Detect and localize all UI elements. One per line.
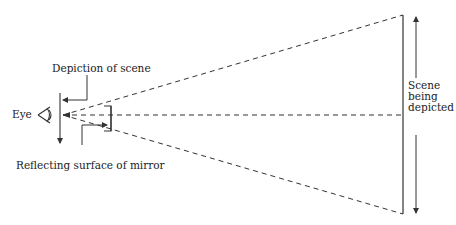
depiction-label: Depiction of scene [52, 63, 151, 74]
ray-arrowhead [63, 112, 70, 118]
scene-label-line3: depicted [408, 102, 454, 113]
eye-icon [38, 107, 51, 123]
depiction-leader [63, 75, 87, 100]
mirror-label: Reflecting surface of mirror [16, 160, 165, 171]
mirror-leader [82, 125, 107, 145]
diagram-canvas [0, 0, 456, 225]
mirror-bracket [104, 106, 111, 131]
sight-lines [63, 15, 403, 214]
eye-label: Eye [12, 109, 32, 120]
